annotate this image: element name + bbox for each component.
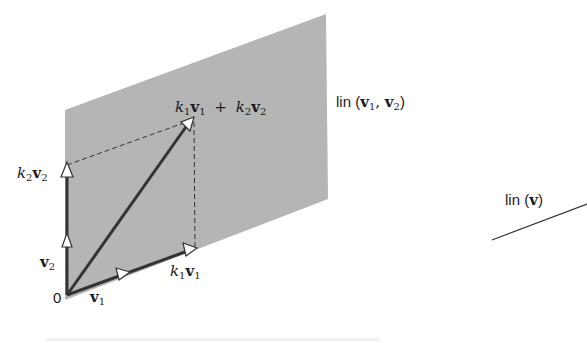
origin-label: 0 (53, 290, 61, 305)
k2v2-label: k2v2 (17, 166, 48, 183)
linear-span-diagram: 0 v1 v2 k1v1 k2v2 k1v1 + k2v2 lin (v1, v… (0, 0, 587, 343)
k1v1-label: k1v1 (170, 264, 201, 281)
sum-label: k1v1 + k2v2 (175, 100, 266, 117)
diagram-canvas (0, 0, 587, 343)
span-line (492, 204, 587, 240)
plane-label: lin (v1, v2) (336, 94, 405, 112)
v2-label: v2 (40, 255, 55, 272)
bottom-scan-strip (45, 338, 380, 341)
line-label: lin (v) (505, 192, 543, 208)
span-plane (65, 14, 328, 300)
v1-label: v1 (90, 290, 105, 307)
